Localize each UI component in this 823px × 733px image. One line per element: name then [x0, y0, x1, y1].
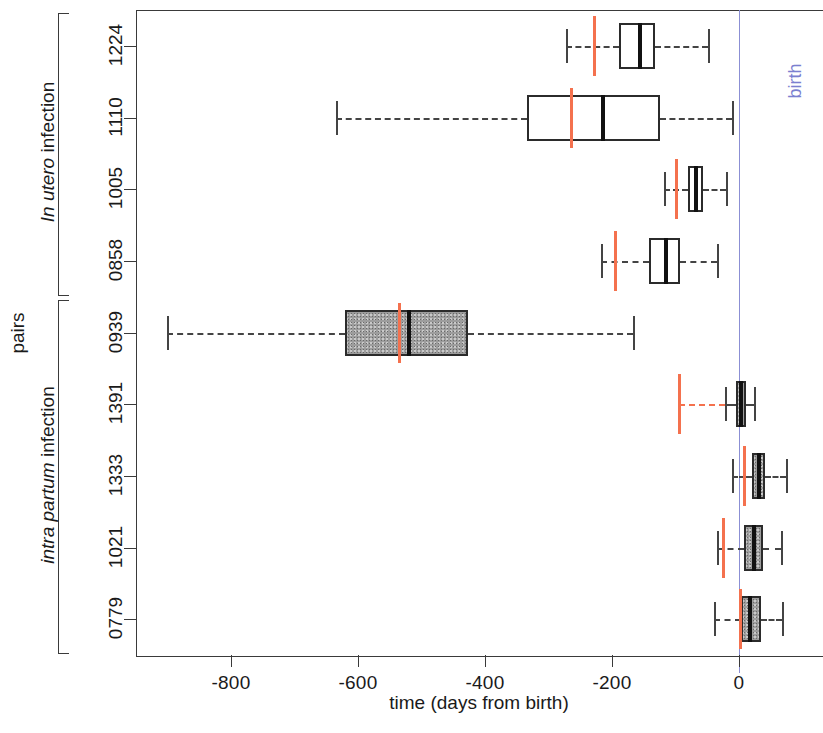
whisker-cap-right: [781, 531, 783, 565]
x-axis-title: time (days from birth): [136, 692, 822, 714]
whisker-cap-right: [782, 602, 784, 636]
y-axis-tick-label: 0779: [105, 578, 127, 658]
birth-reference-line: [739, 10, 740, 673]
red-marker: [593, 16, 596, 76]
group-label: intra partum infection: [37, 299, 59, 652]
y-axis-tick-label: 1021: [105, 507, 127, 587]
median-line: [601, 95, 605, 141]
red-marker: [678, 374, 681, 434]
whisker-cap-right: [633, 316, 635, 350]
whisker-right: [763, 548, 781, 550]
whisker-left: [167, 333, 345, 335]
y-axis-tick-label: 0939: [105, 292, 127, 372]
whisker-right: [746, 404, 754, 406]
x-axis-tick-label: -400: [445, 672, 525, 694]
group-label-plain: infection: [37, 386, 58, 462]
whisker-cap-right: [726, 172, 728, 206]
whisker-right: [703, 189, 726, 191]
whisker-cap-right: [717, 244, 719, 278]
median-line: [407, 310, 411, 356]
marker-connector: [679, 404, 725, 406]
group-label: In utero infection: [37, 12, 59, 293]
red-marker: [739, 589, 742, 649]
x-axis-tick: [231, 655, 232, 667]
whisker-cap-left: [601, 244, 603, 278]
whisker-cap-left: [714, 602, 716, 636]
y-axis-tick-label: 0858: [105, 220, 127, 300]
whisker-left: [336, 118, 527, 120]
whisker-cap-right: [708, 29, 710, 63]
group-bracket: [58, 13, 69, 296]
red-marker: [675, 159, 678, 219]
median-line: [694, 166, 698, 212]
whisker-cap-left: [717, 531, 719, 565]
x-axis-tick-label: 0: [699, 672, 779, 694]
y-axis-title: pairs: [7, 303, 29, 363]
y-axis-tick-label: 1224: [105, 5, 127, 85]
red-marker: [570, 88, 573, 148]
whisker-cap-left: [725, 387, 727, 421]
whisker-cap-right: [732, 101, 734, 135]
x-axis-tick: [358, 655, 359, 667]
whisker-right: [655, 46, 708, 48]
group-bracket: [58, 300, 69, 655]
whisker-left: [714, 619, 741, 621]
group-label-italic: intra partum: [37, 462, 58, 563]
median-line: [757, 453, 761, 499]
whisker-right: [765, 476, 786, 478]
whisker-right: [468, 333, 633, 335]
median-line: [638, 23, 642, 69]
whisker-right: [660, 118, 732, 120]
x-axis-tick-label: -800: [191, 672, 271, 694]
birth-label: birth: [785, 39, 806, 99]
y-axis-tick-label: 1110: [105, 77, 127, 157]
box: [527, 95, 660, 141]
y-axis-tick-label: 1333: [105, 435, 127, 515]
whisker-cap-left: [732, 459, 734, 493]
whisker-right: [761, 619, 782, 621]
median-line: [752, 525, 756, 571]
median-line: [739, 381, 743, 427]
whisker-right: [680, 261, 717, 263]
whisker-cap-right: [786, 459, 788, 493]
whisker-cap-left: [664, 172, 666, 206]
whisker-cap-left: [167, 316, 169, 350]
whisker-cap-left: [566, 29, 568, 63]
group-label-plain: infection: [37, 82, 58, 158]
whisker-left: [732, 476, 752, 478]
median-line: [748, 596, 752, 642]
red-marker: [398, 303, 401, 363]
y-axis-tick-label: 1391: [105, 363, 127, 443]
median-line: [664, 238, 668, 284]
whisker-cap-right: [754, 387, 756, 421]
whisker-cap-left: [336, 101, 338, 135]
y-axis-tick-label: 1005: [105, 148, 127, 228]
x-axis-tick: [739, 655, 740, 667]
red-marker: [614, 231, 617, 291]
x-axis-tick-label: -200: [572, 672, 652, 694]
red-marker: [722, 518, 725, 578]
x-axis-tick: [485, 655, 486, 667]
x-axis-tick-label: -600: [318, 672, 398, 694]
group-label-italic: In utero: [37, 158, 58, 222]
red-marker: [743, 446, 746, 506]
whisker-left: [601, 261, 649, 263]
x-axis-tick: [612, 655, 613, 667]
